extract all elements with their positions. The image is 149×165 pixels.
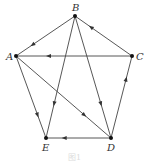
- edge-A-D: [16, 56, 111, 138]
- arrowhead-icon: [35, 112, 39, 117]
- node-label-D: D: [106, 142, 115, 153]
- node-A: [14, 54, 18, 58]
- node-label-B: B: [71, 2, 79, 13]
- edges: [16, 16, 132, 140]
- arrowhead-icon: [46, 54, 51, 58]
- node-label-C: C: [136, 51, 144, 62]
- nodes: ABCDE: [5, 2, 144, 153]
- edge-B-A: [16, 16, 75, 56]
- node-C: [130, 54, 134, 58]
- edge-B-E: [46, 16, 75, 138]
- arrowhead-icon: [98, 101, 102, 106]
- node-E: [44, 136, 48, 140]
- node-label-A: A: [5, 51, 13, 62]
- arrowhead-icon: [62, 136, 67, 140]
- node-B: [73, 14, 77, 18]
- edge-D-C: [111, 56, 132, 138]
- arrowhead-icon: [30, 42, 35, 46]
- edge-B-D: [75, 16, 111, 138]
- edge-C-B: [75, 16, 132, 56]
- graph-diagram: ABCDE 图1: [0, 0, 149, 165]
- node-D: [109, 136, 113, 140]
- arrowhead-icon: [89, 26, 94, 31]
- figure-caption: 图1: [68, 153, 81, 162]
- graph-svg: ABCDE 图1: [0, 0, 149, 165]
- edge-A-E: [16, 56, 46, 138]
- node-label-E: E: [41, 142, 50, 153]
